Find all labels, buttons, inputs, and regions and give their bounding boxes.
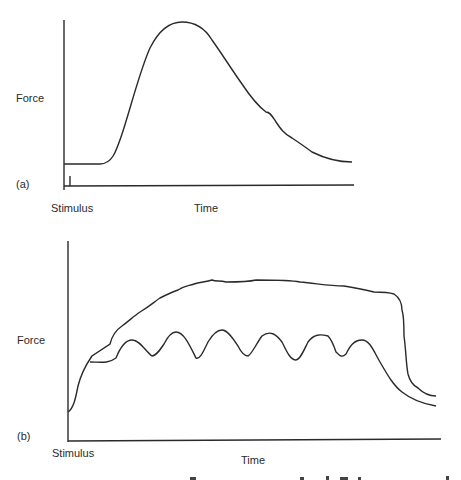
panel-b-stimulus-label: Stimulus: [52, 447, 94, 459]
panel-b-label: (b): [17, 430, 30, 442]
panel-a-y-axis-label: Force: [16, 92, 44, 104]
panel-a-x-axis-label: Time: [194, 202, 218, 214]
panel-a-twitch-curve: [64, 22, 352, 164]
panel-b-x-axis: [68, 439, 441, 441]
panel-a-axes: [64, 20, 354, 190]
diagram-canvas: [0, 0, 461, 480]
caption-fragment: [190, 476, 449, 480]
panel-a-label: (a): [16, 178, 29, 190]
panel-b-x-axis-label: Time: [241, 454, 265, 466]
panel-b-unfused-tetanus-curve: [90, 330, 436, 406]
panel-a-stimulus-label: Stimulus: [51, 202, 93, 214]
panel-a-x-axis: [64, 185, 354, 186]
panel-b-axes: [68, 241, 441, 442]
panel-b-y-axis-label: Force: [17, 334, 45, 346]
